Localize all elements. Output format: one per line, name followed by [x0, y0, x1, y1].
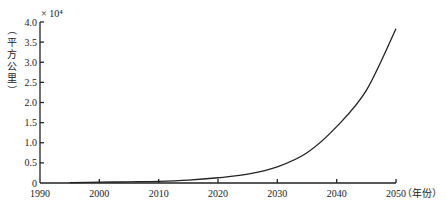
y-axis-label-char: ）: [6, 85, 17, 95]
y-tick-label: 3.0: [25, 57, 38, 68]
x-tick-label: 2000: [89, 188, 109, 199]
y-tick-label: 0: [32, 178, 37, 189]
y-axis-label-char: 里: [7, 73, 17, 84]
y-axis-label-char: 方: [7, 48, 17, 60]
line-chart: 00.51.01.52.02.53.03.54.0 19902000201020…: [0, 0, 446, 208]
x-tick-label: 2030: [267, 188, 287, 199]
y-tick-label: 3.5: [25, 37, 38, 48]
y-tick-label: 2.5: [25, 77, 38, 88]
y-tick-label: 2.0: [25, 97, 38, 108]
y-axis-label-char: 平: [7, 37, 17, 48]
y-tick-label: 0.5: [25, 157, 38, 168]
data-line: [70, 29, 396, 183]
x-tick-label: 1990: [30, 188, 50, 199]
x-axis-label: （年份）: [402, 187, 442, 199]
y-tick-label: 1.5: [25, 117, 38, 128]
x-tick-label: 2040: [327, 188, 347, 199]
y-tick-label: 1.0: [25, 137, 38, 148]
y-axis-label: （平方公里）: [6, 25, 17, 95]
y-axis-ticks: 00.51.01.52.02.53.03.54.0: [25, 17, 45, 189]
y-multiplier-label: × 10⁴: [41, 8, 63, 19]
x-tick-label: 2010: [149, 188, 169, 199]
y-tick-label: 4.0: [25, 17, 38, 28]
y-axis-label-char: （: [6, 25, 17, 35]
x-tick-label: 2020: [208, 188, 228, 199]
y-axis-label-char: 公: [7, 61, 17, 72]
